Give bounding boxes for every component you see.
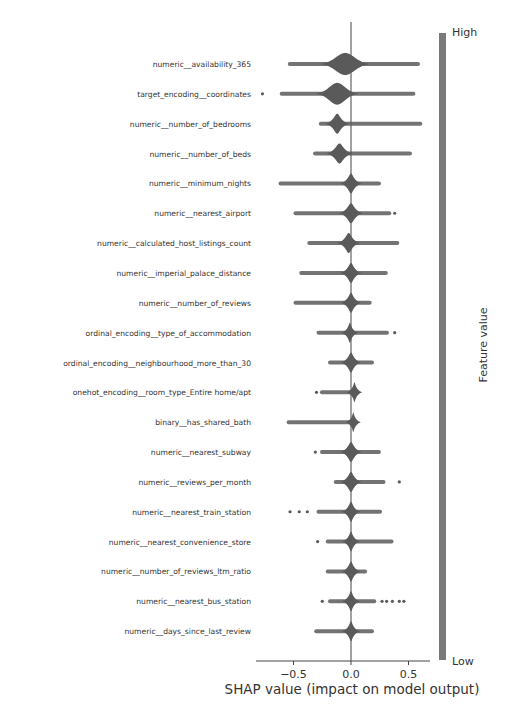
feature-label: numeric__nearest_train_station — [132, 507, 251, 516]
violin-14 — [334, 472, 401, 492]
colorbar-title: Feature value — [477, 307, 490, 382]
colorbar-low-label: Low — [452, 655, 474, 668]
violin-10 — [328, 353, 374, 373]
feature-label: numeric__nearest_bus_station — [136, 597, 251, 606]
violin-11 — [315, 382, 362, 402]
violin-9 — [317, 323, 397, 343]
feature-label: ordinal_encoding__neighbourhood_more_tha… — [63, 358, 251, 367]
violin-12 — [287, 412, 361, 432]
feature-label: numeric__nearest_convenience_store — [109, 537, 251, 546]
violin-2 — [319, 114, 423, 134]
x-tick-label: −0.5 — [280, 668, 307, 681]
feature-label: ordinal_encoding__type_of_accommodation — [86, 328, 251, 337]
violins — [261, 53, 422, 641]
violin-16 — [316, 532, 394, 552]
violin-18 — [321, 591, 406, 611]
feature-label: numeric__number_of_bedrooms — [130, 119, 251, 128]
x-axis — [256, 661, 430, 665]
feature-label: numeric__nearest_subway — [151, 448, 251, 457]
violin-7 — [299, 263, 388, 283]
feature-label: numeric__availability_365 — [153, 60, 251, 69]
violin-1 — [261, 83, 416, 105]
feature-label: numeric__minimum_nights — [149, 179, 251, 188]
feature-label: numeric__calculated_host_listings_count — [97, 239, 251, 248]
colorbar-high-label: High — [452, 26, 477, 39]
violin-15 — [288, 502, 382, 522]
feature-label: numeric__days_since_last_review — [124, 627, 251, 636]
violin-19 — [314, 621, 374, 641]
violin-3 — [313, 144, 412, 164]
feature-label: numeric__number_of_beds — [149, 149, 251, 158]
violin-13 — [314, 442, 381, 462]
colorbar — [439, 33, 446, 660]
violin-0 — [288, 53, 420, 75]
violin-8 — [294, 293, 372, 313]
feature-label: numeric__imperial_palace_distance — [116, 268, 251, 277]
feature-label: binary__has_shared_bath — [155, 418, 251, 427]
x-axis-label: SHAP value (impact on model output) — [225, 681, 480, 697]
feature-label: onehot_encoding__room_type_Entire home/a… — [73, 388, 251, 397]
violin-4 — [279, 173, 381, 193]
feature-label: numeric__number_of_reviews_ltm_ratio — [101, 567, 251, 576]
violin-17 — [326, 561, 367, 581]
violin-5 — [294, 203, 397, 223]
violin-6 — [307, 233, 399, 253]
feature-label: numeric__nearest_airport — [154, 209, 251, 218]
feature-label: numeric__number_of_reviews — [139, 298, 251, 307]
x-tick-label: 0.5 — [400, 668, 418, 681]
feature-label: target_encoding__coordinates — [137, 89, 251, 98]
x-tick-label: 0.0 — [342, 668, 360, 681]
feature-label: numeric__reviews_per_month — [138, 477, 251, 486]
